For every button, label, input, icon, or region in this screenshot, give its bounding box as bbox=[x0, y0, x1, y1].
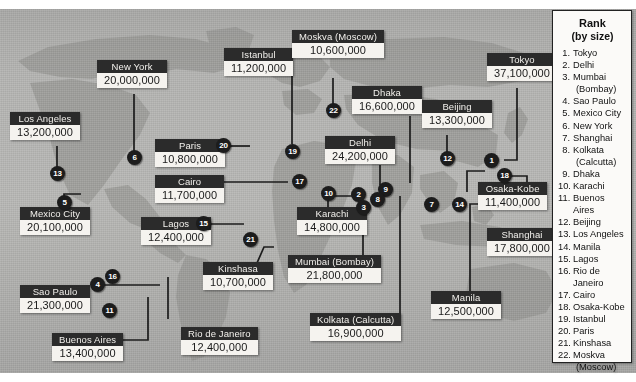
city-label-kolkata[interactable]: Kolkata (Calcutta) 16,900,000 bbox=[310, 313, 401, 341]
rank-item-number: 8. bbox=[558, 144, 573, 156]
rank-list-item[interactable]: 12.Beijing bbox=[558, 216, 627, 228]
rank-list-item[interactable]: 10.Karachi bbox=[558, 180, 627, 192]
city-name-kinshasa: Kinshasa bbox=[203, 262, 273, 275]
city-label-sao-paulo[interactable]: Sao Paulo 21,300,000 bbox=[20, 285, 90, 313]
rank-list-item[interactable]: 6.New York bbox=[558, 120, 627, 132]
city-name-new-york: New York bbox=[97, 60, 167, 73]
map-marker-4-sao-paulo[interactable]: 4 bbox=[90, 277, 105, 292]
rank-item-city: Istanbul bbox=[573, 313, 627, 325]
rank-item-city: Kinshasa bbox=[573, 337, 627, 349]
city-population-paris: 10,800,000 bbox=[155, 152, 225, 167]
rank-list-item[interactable]: 20.Paris bbox=[558, 325, 627, 337]
city-label-los-angeles[interactable]: Los Angeles 13,200,000 bbox=[10, 112, 80, 140]
map-marker-8-kolkata[interactable]: 8 bbox=[370, 192, 385, 207]
rank-list-item[interactable]: 15.Lagos bbox=[558, 253, 627, 265]
city-population-cairo: 11,700,000 bbox=[155, 188, 224, 203]
city-label-paris[interactable]: Paris 10,800,000 bbox=[155, 139, 225, 167]
rank-item-city: Karachi bbox=[573, 180, 627, 192]
rank-list-item[interactable]: 11.Buenos Aires bbox=[558, 192, 627, 216]
city-label-new-york[interactable]: New York 20,000,000 bbox=[97, 60, 167, 88]
rank-list-item[interactable]: 18.Osaka-Kobe bbox=[558, 301, 627, 313]
rank-item-number: 10. bbox=[558, 180, 573, 192]
rank-list-item[interactable]: 22.Moskva bbox=[558, 349, 627, 361]
map-marker-10-karachi[interactable]: 10 bbox=[321, 186, 336, 201]
city-name-tokyo: Tokyo bbox=[487, 53, 557, 66]
map-marker-7-shanghai[interactable]: 7 bbox=[424, 197, 439, 212]
city-population-istanbul: 11,200,000 bbox=[224, 61, 293, 76]
rank-list-item[interactable]: 13.Los Angeles bbox=[558, 228, 627, 240]
city-name-kolkata: Kolkata (Calcutta) bbox=[310, 313, 401, 326]
city-label-osaka-kobe[interactable]: Osaka-Kobe 11,400,000 bbox=[478, 182, 547, 210]
map-marker-17-cairo[interactable]: 17 bbox=[292, 174, 307, 189]
rank-item-number: 13. bbox=[558, 228, 573, 240]
rank-item-number: 5. bbox=[558, 107, 573, 119]
city-label-delhi[interactable]: Delhi 24,200,000 bbox=[325, 136, 395, 164]
city-label-kinshasa[interactable]: Kinshasa 10,700,000 bbox=[203, 262, 273, 290]
rank-list-item[interactable]: 19.Istanbul bbox=[558, 313, 627, 325]
map-marker-13-los-angeles[interactable]: 13 bbox=[50, 166, 65, 181]
rank-list-item[interactable]: 9.Dhaka bbox=[558, 168, 627, 180]
rank-item-city: Paris bbox=[573, 325, 627, 337]
city-name-istanbul: Istanbul bbox=[224, 48, 293, 61]
rank-list-item[interactable]: 5.Mexico City bbox=[558, 107, 627, 119]
rank-list-item[interactable]: 21.Kinshasa bbox=[558, 337, 627, 349]
map-marker-18-osaka-kobe[interactable]: 18 bbox=[497, 168, 512, 183]
city-name-dhaka: Dhaka bbox=[352, 86, 422, 99]
rank-item-number: 15. bbox=[558, 253, 573, 265]
city-population-rio-de-janeiro: 12,400,000 bbox=[181, 340, 258, 355]
rank-item-city: Tokyo bbox=[573, 47, 627, 59]
rank-list-item[interactable]: 14.Manila bbox=[558, 241, 627, 253]
rank-list: 1.Tokyo2.Delhi3.Mumbai(Bombay)4.Sao Paul… bbox=[558, 47, 627, 374]
rank-list-item[interactable]: 16.Rio de Janeiro bbox=[558, 265, 627, 289]
city-name-rio-de-janeiro: Rio de Janeiro bbox=[181, 327, 258, 340]
rank-list-item[interactable]: 4.Sao Paulo bbox=[558, 95, 627, 107]
city-label-tokyo[interactable]: Tokyo 37,100,000 bbox=[487, 53, 557, 81]
city-population-kinshasa: 10,700,000 bbox=[203, 275, 273, 290]
rank-item-city: Moskva bbox=[573, 349, 627, 361]
city-label-dhaka[interactable]: Dhaka 16,600,000 bbox=[352, 86, 422, 114]
city-population-shanghai: 17,800,000 bbox=[487, 241, 557, 256]
rank-item-number: 11. bbox=[558, 192, 573, 216]
map-marker-20-paris[interactable]: 20 bbox=[216, 138, 231, 153]
map-marker-22-moskva[interactable]: 22 bbox=[326, 103, 341, 118]
rank-item-continuation: (Bombay) bbox=[558, 83, 627, 95]
map-marker-3-mumbai[interactable]: 3 bbox=[356, 200, 371, 215]
rank-list-item[interactable]: 7.Shanghai bbox=[558, 132, 627, 144]
map-marker-19-istanbul[interactable]: 19 bbox=[285, 144, 300, 159]
map-marker-1-tokyo[interactable]: 1 bbox=[484, 153, 499, 168]
city-label-rio-de-janeiro[interactable]: Rio de Janeiro 12,400,000 bbox=[181, 327, 258, 355]
map-marker-14-manila[interactable]: 14 bbox=[452, 197, 467, 212]
city-population-mumbai: 21,800,000 bbox=[288, 268, 381, 283]
rank-list-item[interactable]: 8.Kolkata bbox=[558, 144, 627, 156]
map-marker-15-lagos[interactable]: 15 bbox=[196, 216, 211, 231]
city-population-osaka-kobe: 11,400,000 bbox=[478, 195, 547, 210]
rank-item-city: Shanghai bbox=[573, 132, 627, 144]
rank-item-number: 7. bbox=[558, 132, 573, 144]
city-label-mumbai[interactable]: Mumbai (Bombay) 21,800,000 bbox=[288, 255, 381, 283]
rank-list-item[interactable]: 17.Cairo bbox=[558, 289, 627, 301]
city-label-shanghai[interactable]: Shanghai 17,800,000 bbox=[487, 228, 557, 256]
city-label-manila[interactable]: Manila 12,500,000 bbox=[431, 291, 501, 319]
rank-list-item[interactable]: 1.Tokyo bbox=[558, 47, 627, 59]
rank-item-city: Dhaka bbox=[573, 168, 627, 180]
rank-list-item[interactable]: 3.Mumbai bbox=[558, 71, 627, 83]
map-marker-21-kinshasa[interactable]: 21 bbox=[243, 232, 258, 247]
city-population-los-angeles: 13,200,000 bbox=[10, 125, 80, 140]
city-label-buenos-aires[interactable]: Buenos Aires 13,400,000 bbox=[52, 333, 123, 361]
map-marker-11-buenos-aires[interactable]: 11 bbox=[102, 303, 117, 318]
rank-item-number: 17. bbox=[558, 289, 573, 301]
city-name-osaka-kobe: Osaka-Kobe bbox=[478, 182, 547, 195]
map-marker-16-rio[interactable]: 16 bbox=[105, 269, 120, 284]
city-label-istanbul[interactable]: Istanbul 11,200,000 bbox=[224, 48, 293, 76]
city-label-beijing[interactable]: Beijing 13,300,000 bbox=[422, 100, 492, 128]
map-marker-5-mexico-city[interactable]: 5 bbox=[57, 195, 72, 210]
rank-item-number: 21. bbox=[558, 337, 573, 349]
city-label-mexico-city[interactable]: Mexico City 20,100,000 bbox=[20, 207, 90, 235]
map-marker-12-beijing[interactable]: 12 bbox=[440, 151, 455, 166]
city-label-moskva[interactable]: Moskva (Moscow) 10,600,000 bbox=[292, 30, 384, 58]
map-marker-6-new-york[interactable]: 6 bbox=[127, 150, 142, 165]
city-population-lagos: 12,400,000 bbox=[141, 230, 211, 245]
rank-list-item[interactable]: 2.Delhi bbox=[558, 59, 627, 71]
city-label-cairo[interactable]: Cairo 11,700,000 bbox=[155, 175, 224, 203]
rank-legend-panel: Rank (by size) 1.Tokyo2.Delhi3.Mumbai(Bo… bbox=[552, 10, 632, 363]
